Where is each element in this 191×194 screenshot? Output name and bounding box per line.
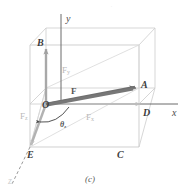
- stray-mark: ': [111, 5, 112, 10]
- z-axis-label: z: [8, 176, 12, 186]
- diagonal-O-to-A-faint: [46, 45, 139, 88]
- y-axis-label: y: [66, 14, 70, 24]
- box-edge-diag-top-right: [139, 28, 155, 45]
- resultant-force-shaft: [47, 89, 133, 105]
- force-x-subscript: x: [91, 116, 94, 122]
- force-y-label: Fy: [62, 66, 70, 75]
- vertex-label-A: A: [141, 80, 148, 90]
- theta-subscript: z: [64, 124, 66, 129]
- force-z-subscript: z: [25, 115, 28, 121]
- vertex-label-O: O: [42, 100, 49, 110]
- vertex-label-C: C: [117, 150, 124, 160]
- force-x-label: Fx: [86, 113, 94, 122]
- force-z-arrow: [31, 104, 46, 145]
- force-z-label: Fz: [20, 112, 28, 121]
- theta-z-label: θz: [60, 121, 66, 129]
- vertex-label-D: D: [143, 108, 150, 118]
- vector-decomposition-figure: y x z B O A D E C Fy Fx Fz F θz (c) ': [0, 0, 191, 194]
- figure-caption: (c): [85, 175, 95, 184]
- diagram-canvas: [0, 0, 191, 194]
- resultant-force-label: F: [71, 87, 77, 96]
- force-y-subscript: y: [67, 69, 70, 75]
- vertex-label-E: E: [27, 150, 34, 160]
- vertex-label-B: B: [37, 38, 44, 48]
- x-axis-label: x: [172, 108, 176, 118]
